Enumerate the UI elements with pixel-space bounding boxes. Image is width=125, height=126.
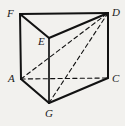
diagonal-A-D — [21, 13, 108, 79]
vertex-label-F: F — [7, 8, 14, 19]
vertex-label-E: E — [38, 36, 45, 47]
triangular-prism-drawing — [0, 0, 125, 126]
edge-F-A — [20, 14, 21, 79]
edge-A-C-hidden — [21, 78, 108, 79]
edge-A-G — [21, 79, 49, 103]
vertex-label-G: G — [45, 108, 53, 119]
vertex-label-A: A — [8, 73, 15, 84]
edge-F-D — [20, 13, 108, 14]
vertex-label-C: C — [112, 73, 119, 84]
geometry-figure: F D E A C G — [0, 0, 125, 126]
vertex-label-D: D — [112, 7, 120, 18]
edge-layer — [20, 13, 108, 103]
